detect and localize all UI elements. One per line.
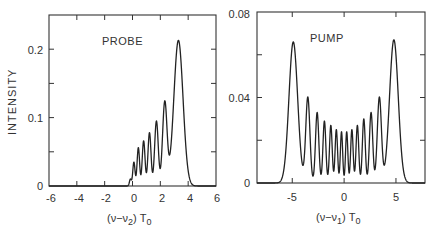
probe-y-axis-label: INTENSITY <box>6 69 18 135</box>
probe-xtick--6: -6 <box>46 192 56 204</box>
probe-x-axis-label: (ν−ν2) T0 <box>107 212 152 227</box>
probe-title: PROBE <box>102 35 143 47</box>
pump-xtick--5: -5 <box>287 191 297 203</box>
probe-xtick--2: -2 <box>101 192 111 204</box>
pump-xtick-0: 0 <box>341 191 347 203</box>
probe-xtick-2: 2 <box>159 192 165 204</box>
pump-ytick-0.08: 0.08 <box>229 8 250 20</box>
probe-xtick--4: -4 <box>74 192 84 204</box>
probe-ytick-0: 0 <box>37 180 43 192</box>
probe-ytick-0.1: 0.1 <box>28 112 43 124</box>
probe-xtick-4: 4 <box>187 192 193 204</box>
probe-panel: PROBE INTENSITY 0 0.1 0.2 -6 -4 -2 0 2 4… <box>6 15 220 227</box>
pump-spectrum-curve <box>257 40 425 183</box>
probe-ytick-0.2: 0.2 <box>28 44 43 56</box>
pump-xtick-5: 5 <box>393 191 399 203</box>
probe-spectrum-curve <box>49 40 216 186</box>
figure: PROBE INTENSITY 0 0.1 0.2 -6 -4 -2 0 2 4… <box>0 0 434 233</box>
probe-xtick-6: 6 <box>214 192 220 204</box>
pump-ytick-0: 0 <box>244 177 250 189</box>
pump-x-axis-label: (ν−ν1) T0 <box>316 211 361 226</box>
probe-xtick-0: 0 <box>131 192 137 204</box>
pump-ytick-0.04: 0.04 <box>229 92 250 104</box>
pump-title: PUMP <box>310 32 344 44</box>
pump-panel: PUMP 0 0.04 0.08 -5 0 5 (ν−ν1) T0 <box>229 8 425 226</box>
